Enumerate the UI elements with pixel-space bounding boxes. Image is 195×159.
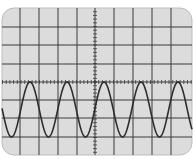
oscilloscope-display — [0, 0, 195, 159]
